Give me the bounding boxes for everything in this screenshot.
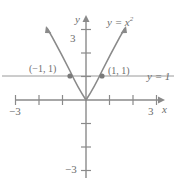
coordinate-plane-svg	[0, 0, 176, 182]
intersection-point-left	[67, 73, 72, 78]
point-label-left: (−1, 1)	[29, 64, 56, 74]
parabola-exponent: 2	[130, 15, 134, 23]
y-tick-label-neg3: −3	[65, 164, 77, 175]
graph-figure: y x 3 −3 −3 3 y = x2 y = 1 (−1, 1) (1, 1…	[0, 0, 176, 182]
y-tick-label-3: 3	[70, 33, 76, 44]
point-label-right: (1, 1)	[108, 66, 130, 76]
y-axis-label: y	[75, 14, 80, 25]
x-axis-label: x	[162, 104, 167, 115]
x-tick-label-neg3: −3	[9, 106, 21, 117]
parabola-equation-label: y = x2	[107, 16, 133, 28]
parabola-left-arrow-icon	[45, 26, 51, 33]
x-tick-label-3: 3	[148, 106, 154, 117]
line-equation-label: y = 1	[147, 71, 170, 82]
y-axis-arrow-icon	[83, 15, 90, 22]
parabola-equation-text: y = x	[107, 16, 130, 28]
intersection-point-right	[99, 73, 104, 78]
